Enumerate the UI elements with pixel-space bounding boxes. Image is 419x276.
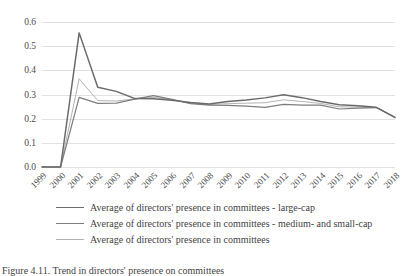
series-lines (42, 22, 395, 167)
y-tick-label: 0.6 (24, 17, 36, 27)
y-tick-label: 0.4 (24, 65, 36, 75)
legend-item-large-cap[interactable]: Average of directors' presence in commit… (56, 199, 406, 215)
y-tick-label: 0.5 (24, 41, 36, 51)
x-tick-label: 2018 (395, 158, 414, 177)
legend-swatch-medium-small-cap (56, 223, 84, 224)
series-line (42, 33, 395, 167)
y-tick-label: 0.1 (24, 138, 36, 148)
legend-swatch-large-cap (56, 207, 84, 208)
legend-label-large-cap: Average of directors' presence in commit… (90, 202, 315, 213)
legend-item-overall[interactable]: Average of directors' presence in commit… (56, 231, 406, 247)
series-line (42, 79, 395, 167)
legend-swatch-overall (56, 239, 84, 240)
y-tick-label: 0.0 (24, 162, 36, 172)
plot-area (42, 22, 395, 167)
y-tick-label: 0.3 (24, 90, 36, 100)
y-tick-label: 0.2 (24, 114, 36, 124)
legend-item-medium-small-cap[interactable]: Average of directors' presence in commit… (56, 215, 406, 231)
legend-label-medium-small-cap: Average of directors' presence in commit… (90, 218, 372, 229)
figure-caption: Figure 4.11. Trend in directors' presenc… (2, 265, 417, 276)
chart-legend: Average of directors' presence in commit… (56, 199, 406, 247)
y-axis: 0.00.10.20.30.40.50.6 (0, 0, 42, 170)
legend-label-overall: Average of directors' presence in commit… (90, 234, 270, 245)
